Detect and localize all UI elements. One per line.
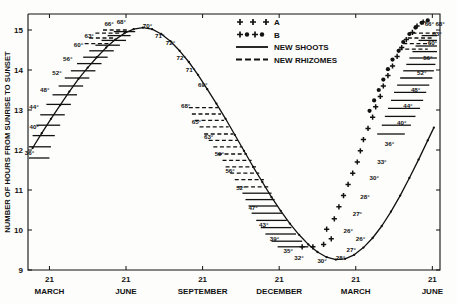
curve-point [234,134,236,136]
curve-point [206,88,208,90]
temperature-annotation: 52° [236,184,246,191]
plus-marker [321,242,326,247]
curve-point [261,181,263,183]
legend-label-1: A [274,18,280,27]
temperature-annotation: 52° [417,69,427,76]
temperature-annotation: 68° [181,102,191,109]
x-month-label: MARCH [341,287,371,296]
curve-point [133,28,135,30]
legend-plus-icon [237,32,243,38]
temperature-annotation: 27° [353,210,363,217]
curve-point [298,234,300,236]
x-month-label: SEPTEMBER [178,287,228,296]
dot-marker [401,40,405,44]
x-tick-label: 21 [428,275,437,284]
legend-plus-icon [237,19,243,25]
dot-marker [367,109,371,113]
plus-marker [361,137,366,142]
curve-point [381,225,383,227]
dot-marker [377,88,381,92]
temperature-annotation: 47° [248,204,258,211]
x-tick-label: 21 [198,275,207,284]
plus-marker [358,148,363,153]
legend-plus-icon [250,19,256,25]
curve-point [87,66,89,68]
curve-point [280,210,282,212]
temperature-annotation: 63° [84,32,94,39]
legend-plus-icon [252,32,258,38]
daylength-curve [33,28,434,260]
y-tick-label: 12 [14,146,23,155]
y-tick-label: 15 [14,26,23,35]
temperature-annotation: 60° [428,39,438,46]
x-month-label: JUNE [422,287,444,296]
temperature-annotation: 33° [377,158,387,165]
y-tick-label: 9 [19,266,24,275]
temperature-annotation: 72° [166,39,176,46]
temperature-annotation: 27° [347,246,357,253]
temperature-annotation: 71° [186,66,196,73]
plus-marker [332,216,337,221]
legend-plus-icon [263,19,269,25]
curve-point [362,246,364,248]
plus-marker [329,236,334,241]
temperature-annotation: 26° [356,235,366,242]
x-month-label: JUNE [115,287,137,296]
temperature-annotation: 35° [284,247,294,254]
plus-marker [395,54,400,59]
temperature-annotation: 56° [225,167,235,174]
dot-marker [372,98,376,102]
temperature-annotation: 70° [143,22,153,29]
curve-point [417,158,419,160]
dot-marker [413,26,417,30]
legend-dot-icon [260,32,264,36]
curve-point [408,177,410,179]
curve-point [307,243,309,245]
plus-marker [355,159,360,164]
temperature-annotation: 44° [29,103,39,110]
curve-point [353,254,355,256]
x-month-label: MARCH [35,287,65,296]
temperature-annotation: 68° [117,18,127,25]
curve-point [178,50,180,52]
plus-marker [373,104,378,109]
plus-marker [378,94,383,99]
curve-point [41,132,43,134]
temperature-annotation: 56° [63,55,73,62]
curve-point [371,237,373,239]
temperature-annotation: 32° [294,254,304,261]
temperature-annotation: 30° [370,174,380,181]
curve-point [123,32,125,34]
x-tick-label: 21 [351,275,360,284]
temperature-annotation: 60° [74,41,84,48]
y-axis-label: NUMBER OF HOURS FROM SUNRISE TO SUNSET [3,51,12,233]
curve-point [224,118,226,120]
temperature-annotation: 44° [403,102,413,109]
dot-marker [407,32,411,36]
legend-dot-icon [245,32,249,36]
curve-point [399,194,401,196]
temperature-annotation: 56° [423,54,433,61]
temperature-annotation: 43° [259,221,269,228]
temperature-annotation: 66° [425,20,435,27]
temperature-annotation: 52° [52,69,62,76]
temperature-annotation: 39° [270,235,280,242]
plus-marker [300,244,305,249]
temperature-annotation: 36° [385,140,395,147]
dot-marker [390,58,394,62]
curve-point [243,150,245,152]
plus-marker [310,244,315,249]
curve-point [215,102,217,104]
temperature-annotation: 69° [198,81,208,88]
curve-point [77,78,79,80]
y-tick-label: 14 [14,66,23,75]
temperature-annotation: 28° [360,193,370,200]
plus-marker [370,115,375,120]
curve-point [96,56,98,58]
dot-marker [386,67,390,71]
dot-marker [397,49,401,53]
curve-point [105,46,107,48]
legend-label-3: NEW SHOOTS [274,43,329,52]
curve-point [188,61,190,63]
curve-point [316,251,318,253]
